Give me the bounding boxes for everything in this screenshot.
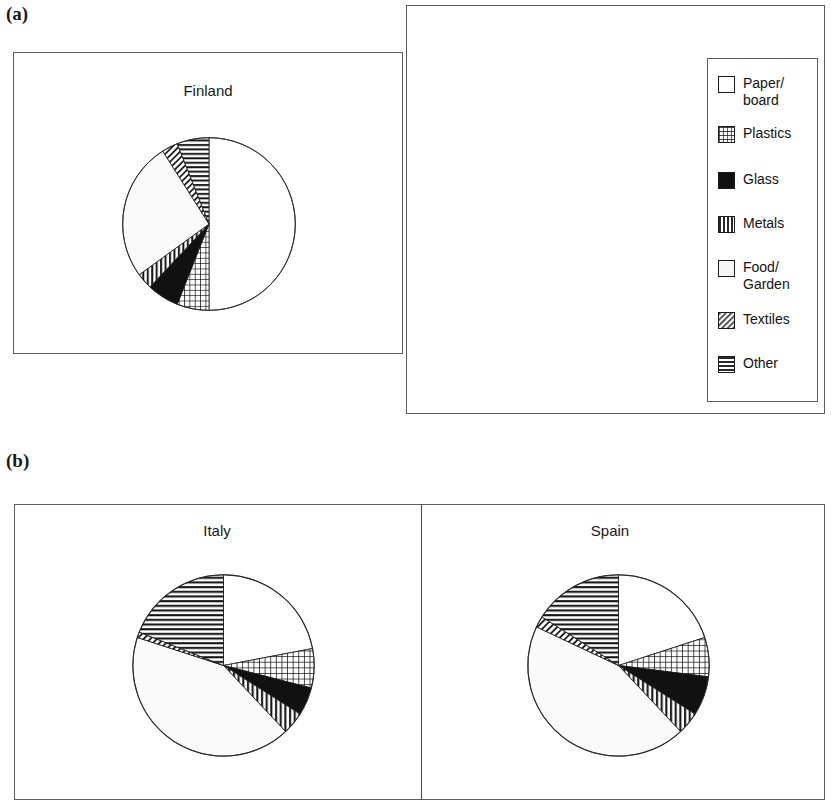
legend-item: Glass [718, 171, 779, 189]
chart-title-finland: Finland [183, 82, 232, 99]
italy-spain-divider [421, 504, 422, 800]
legend-item: Textiles [718, 311, 790, 329]
legend-label: Food/ Garden [743, 259, 790, 293]
legend-swatch-diagonal-icon [718, 312, 735, 329]
legend-swatch-white-icon [718, 76, 735, 93]
legend-label: Paper/ board [743, 75, 784, 109]
legend-swatch-solid-black-icon [718, 172, 735, 189]
pie-chart-finland [120, 135, 298, 313]
legend-swatch-vertical-bars-icon [718, 216, 735, 233]
legend-swatch-pattern [719, 127, 734, 142]
pie-chart-spain [525, 572, 712, 759]
legend-label: Plastics [743, 125, 791, 142]
legend-item: Paper/ board [718, 75, 784, 109]
legend-swatch-horizontal-lines-icon [718, 356, 735, 373]
legend-label: Metals [743, 215, 784, 232]
legend-swatch-very-light-icon [718, 260, 735, 277]
legend-item: Plastics [718, 125, 791, 143]
panel-b-label: (b) [6, 450, 29, 472]
legend-box: Paper/ boardPlasticsGlassMetalsFood/ Gar… [707, 58, 818, 402]
pie-chart-italy [130, 572, 317, 759]
legend-label: Textiles [743, 311, 790, 328]
chart-title-spain: Spain [591, 522, 629, 539]
pie-slice [209, 138, 295, 311]
legend-label: Glass [743, 171, 779, 188]
legend-item: Metals [718, 215, 784, 233]
chart-title-italy: Italy [203, 522, 231, 539]
figure-canvas: (a) (b) Finland UK Italy Spain Paper/ bo… [0, 0, 831, 805]
legend-item: Food/ Garden [718, 259, 790, 293]
legend-swatch-grid-icon [718, 126, 735, 143]
legend-item: Other [718, 355, 778, 373]
panel-a-label: (a) [6, 3, 28, 25]
legend-swatch-pattern [719, 313, 734, 328]
legend-label: Other [743, 355, 778, 372]
legend-swatch-pattern [719, 217, 734, 232]
legend-swatch-pattern [719, 357, 734, 372]
